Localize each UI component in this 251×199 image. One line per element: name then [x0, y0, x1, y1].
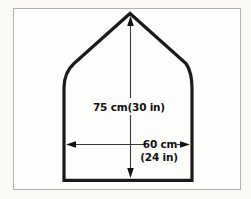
width-dimension-label-line1: 60 cm	[143, 138, 178, 150]
page: 75 cm(30 in) 60 cm (24 in)	[0, 0, 251, 199]
arrowhead-left-icon	[66, 141, 76, 148]
arch-dimension-diagram: 75 cm(30 in) 60 cm (24 in)	[0, 0, 251, 199]
height-dimension-label: 75 cm(30 in)	[93, 101, 165, 113]
width-dimension-label-line2: (24 in)	[140, 151, 178, 163]
arrowhead-right-icon	[180, 141, 190, 148]
arrowhead-down-icon	[127, 168, 134, 178]
